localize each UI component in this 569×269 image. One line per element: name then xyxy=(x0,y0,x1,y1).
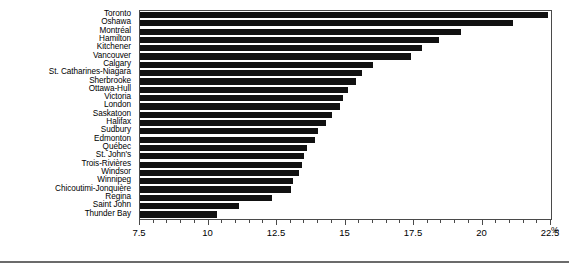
bar xyxy=(140,45,422,51)
bar-row xyxy=(140,102,551,110)
x-axis-minor-tick xyxy=(153,219,154,223)
x-axis-minor-tick xyxy=(536,219,537,223)
bar-row xyxy=(140,61,551,69)
bar xyxy=(140,178,293,184)
x-axis-tick-label: 7.5 xyxy=(132,227,145,238)
bar-row xyxy=(140,144,551,152)
x-axis-unit-label: % xyxy=(551,225,559,235)
x-axis-minor-tick xyxy=(166,219,167,223)
bar xyxy=(140,120,326,126)
x-axis-minor-tick xyxy=(440,219,441,223)
x-axis-minor-tick xyxy=(372,219,373,223)
bar xyxy=(140,170,299,176)
bar xyxy=(140,137,315,143)
x-axis-major-tick xyxy=(276,219,277,225)
bar-row xyxy=(140,111,551,119)
bar-row xyxy=(140,36,551,44)
bar-row xyxy=(140,78,551,86)
x-axis-minor-tick xyxy=(303,219,304,223)
x-axis-minor-tick xyxy=(509,219,510,223)
x-axis-minor-tick xyxy=(262,219,263,223)
bar xyxy=(140,78,356,84)
bar-row xyxy=(140,202,551,210)
bar-row xyxy=(140,152,551,160)
bar xyxy=(140,87,348,93)
bar-row xyxy=(140,211,551,219)
bar xyxy=(140,103,340,109)
x-axis-major-tick xyxy=(482,219,483,225)
bar xyxy=(140,162,302,168)
bar xyxy=(140,203,239,209)
bar-row xyxy=(140,53,551,61)
bar-row xyxy=(140,11,551,19)
bar xyxy=(140,20,513,26)
bar-row xyxy=(140,161,551,169)
x-axis-major-tick xyxy=(139,219,140,225)
x-axis-minor-tick xyxy=(317,219,318,223)
bar-row xyxy=(140,119,551,127)
bar-row xyxy=(140,169,551,177)
x-axis-minor-tick xyxy=(468,219,469,223)
bar-row xyxy=(140,19,551,27)
category-axis-labels: TorontoOshawaMontréalHamiltonKitchenerVa… xyxy=(0,10,135,218)
bar xyxy=(140,186,291,192)
x-axis-major-tick xyxy=(413,219,414,225)
bar xyxy=(140,62,373,68)
bar xyxy=(140,12,548,18)
x-axis-tick-label: 10 xyxy=(202,227,213,238)
x-axis-minor-tick xyxy=(358,219,359,223)
bar xyxy=(140,195,272,201)
bar-row xyxy=(140,94,551,102)
x-axis-tick-label: 17.5 xyxy=(404,227,423,238)
x-axis-minor-tick xyxy=(194,219,195,223)
x-axis-minor-tick xyxy=(386,219,387,223)
bar xyxy=(140,153,304,159)
x-axis-minor-tick xyxy=(180,219,181,223)
bar xyxy=(140,128,318,134)
x-axis-minor-tick xyxy=(249,219,250,223)
bar xyxy=(140,95,343,101)
x-axis-major-tick xyxy=(345,219,346,225)
bar-row xyxy=(140,186,551,194)
bar-row xyxy=(140,28,551,36)
plot-area xyxy=(139,10,552,220)
bar-row xyxy=(140,177,551,185)
x-axis-minor-tick xyxy=(221,219,222,223)
x-axis: 7.51012.51517.52022.5 xyxy=(139,219,550,220)
x-axis-tick-label: 12.5 xyxy=(267,227,286,238)
x-axis-minor-tick xyxy=(454,219,455,223)
bar xyxy=(140,211,217,217)
x-axis-minor-tick xyxy=(495,219,496,223)
x-axis-minor-tick xyxy=(399,219,400,223)
bar xyxy=(140,29,461,35)
bar xyxy=(140,145,307,151)
bar xyxy=(140,37,439,43)
chart-figure: TorontoOshawaMontréalHamiltonKitchenerVa… xyxy=(0,0,569,269)
bar xyxy=(140,70,362,76)
x-axis-minor-tick xyxy=(427,219,428,223)
bar-row xyxy=(140,44,551,52)
bar-row xyxy=(140,194,551,202)
x-axis-minor-tick xyxy=(523,219,524,223)
bar-series xyxy=(140,11,551,219)
x-axis-tick-label: 20 xyxy=(476,227,487,238)
bar xyxy=(140,53,411,59)
x-axis-minor-tick xyxy=(235,219,236,223)
category-label: Thunder Bay xyxy=(0,210,135,218)
x-axis-minor-tick xyxy=(331,219,332,223)
x-axis-tick-label: 15 xyxy=(339,227,350,238)
x-axis-major-tick xyxy=(208,219,209,225)
bar-row xyxy=(140,136,551,144)
x-axis-minor-tick xyxy=(290,219,291,223)
bar-row xyxy=(140,86,551,94)
footer-divider xyxy=(0,261,569,263)
bar-row xyxy=(140,127,551,135)
bar xyxy=(140,112,332,118)
bar-row xyxy=(140,69,551,77)
